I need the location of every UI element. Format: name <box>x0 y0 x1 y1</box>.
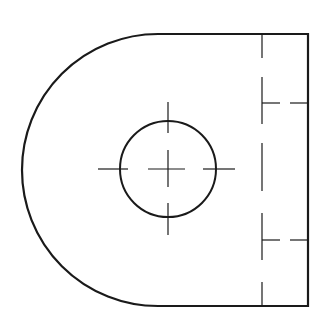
technical-drawing <box>0 0 327 315</box>
hidden-lines <box>262 34 308 306</box>
part-outline <box>22 34 308 306</box>
